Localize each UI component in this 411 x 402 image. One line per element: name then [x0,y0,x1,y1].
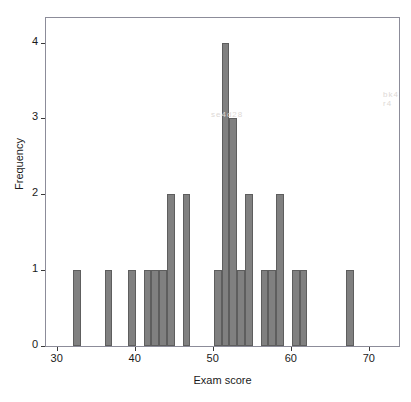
x-tick-mark [57,347,58,351]
histogram-bar [73,270,81,346]
histogram-bar [261,270,269,346]
x-tick-label: 60 [275,353,307,364]
x-tick-label: 50 [197,353,229,364]
histogram-bar [292,270,300,346]
y-tick-label: 4 [32,36,38,47]
y-tick-mark [41,194,45,195]
y-tick-label: 0 [32,339,38,350]
histogram-bar [300,270,308,346]
y-tick-label: 2 [32,187,38,198]
y-tick-mark [41,43,45,44]
y-tick-mark [41,270,45,271]
plot-area: se4d28bk4 r4 [45,17,400,347]
y-tick-mark [41,118,45,119]
histogram-bar [151,270,159,346]
x-tick-label: 70 [353,353,385,364]
histogram-bar [183,194,191,346]
y-tick-label: 1 [32,263,38,274]
y-tick-label: 3 [32,111,38,122]
histogram-bar [167,194,175,346]
x-tick-mark [135,347,136,351]
x-tick-mark [369,347,370,351]
histogram-bar [128,270,136,346]
histogram-bar [222,43,230,346]
histogram-bar [346,270,354,346]
x-axis-title: Exam score [45,374,400,386]
histogram-figure: se4d28bk4 r4 01234 Frequency 3040506070 … [0,0,411,402]
histogram-bar [268,270,276,346]
histogram-bar [237,270,245,346]
histogram-bar [229,118,237,346]
histogram-bar [276,194,284,346]
histogram-bar [105,270,113,346]
x-tick-mark [291,347,292,351]
y-axis-title: Frequency [13,124,25,204]
histogram-bar [245,194,253,346]
x-tick-label: 30 [41,353,73,364]
x-axis: 3040506070 [45,347,400,377]
histogram-bar [144,270,152,346]
histogram-bars [46,18,399,346]
histogram-bar [159,270,167,346]
x-tick-label: 40 [119,353,151,364]
x-tick-mark [213,347,214,351]
histogram-bar [214,270,222,346]
